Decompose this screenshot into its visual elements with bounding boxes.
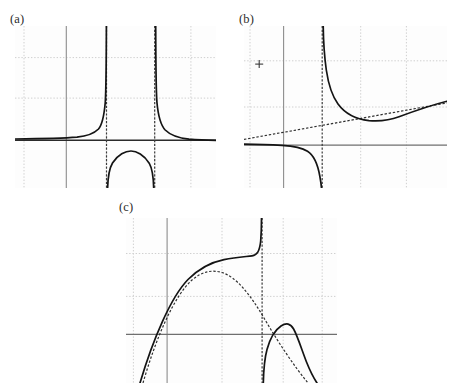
panel-a-branch-middle: [108, 151, 154, 188]
panel-a-vertical-asymptotes: [107, 26, 155, 188]
panel-b-branch-lower-left: [244, 144, 322, 188]
panel-c-grid-horizontal-dotted: [126, 254, 337, 297]
panel-a-grid-horizontal-dotted: [15, 58, 216, 99]
panel-a-grid-vertical-dotted: [24, 26, 191, 188]
panel-a-curve: [15, 26, 216, 188]
panel-b-label: (b): [239, 12, 254, 27]
figure-root: (a): [0, 0, 458, 389]
panel-a-label: (a): [10, 12, 24, 27]
panel-b-plot: [244, 26, 447, 188]
panel-c-svg: [126, 218, 337, 383]
panel-b-svg: [244, 26, 447, 188]
panel-b: (b): [229, 0, 458, 195]
panel-c-plot: [126, 218, 337, 383]
panel-b-curve: [244, 26, 447, 188]
panel-c-branch-right: [263, 324, 317, 383]
panel-c: (c): [110, 195, 350, 389]
panel-a: (a): [0, 0, 229, 195]
panel-b-slant-asymptote: [244, 103, 447, 139]
panel-a-svg: [15, 26, 216, 188]
panel-c-grid-vertical-dotted: [133, 218, 322, 383]
panel-b-grid-horizontal-dotted: [244, 61, 447, 107]
panel-a-branch-right: [156, 26, 216, 140]
panel-c-label: (c): [119, 200, 133, 215]
panel-a-plot: [15, 26, 216, 188]
panel-a-branch-left: [15, 26, 106, 139]
panel-b-plus-marker: [255, 60, 263, 68]
panel-c-branch-left: [140, 218, 262, 383]
